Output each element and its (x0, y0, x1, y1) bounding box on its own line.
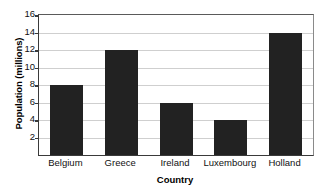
y-axis-tick-mark (35, 15, 39, 17)
y-axis-tick-label: 12 (16, 44, 35, 54)
bar (105, 50, 138, 155)
x-axis-tick-labels: BelgiumGreeceIrelandLuxembourgHolland (38, 157, 312, 171)
x-axis-tick-label: Luxembourg (202, 157, 257, 169)
bar (214, 120, 247, 155)
y-axis-tick-mark (35, 50, 39, 52)
x-axis-tick-label: Belgium (38, 157, 93, 169)
x-axis-tick-label: Holland (257, 157, 312, 169)
x-axis-title: Country (38, 174, 312, 185)
y-axis-tick-mark (35, 138, 39, 140)
bar (269, 33, 302, 156)
bar (50, 85, 83, 155)
y-axis-tick-mark (35, 68, 39, 70)
bars-group (39, 15, 313, 155)
y-axis-tick-mark (35, 120, 39, 122)
y-axis-tick-mark (35, 85, 39, 87)
x-axis-tick-label: Ireland (148, 157, 203, 169)
y-axis-tick-label: 2 (16, 132, 35, 142)
y-axis-tick-mark (35, 103, 39, 105)
bar-chart: Population (millions) 246810121416 Belgi… (0, 0, 321, 191)
y-axis-tick-labels: 246810121416 (16, 14, 35, 154)
y-axis-tick-label: 10 (16, 62, 35, 72)
y-axis-tick-label: 6 (16, 97, 35, 107)
y-axis-tick-label: 16 (16, 9, 35, 19)
plot-area (38, 14, 314, 156)
y-axis-tick-label: 4 (16, 114, 35, 124)
x-axis-tick-label: Greece (93, 157, 148, 169)
y-axis-tick-mark (35, 33, 39, 35)
bar (160, 103, 193, 156)
y-axis-tick-label: 14 (16, 27, 35, 37)
y-axis-tick-label: 8 (16, 79, 35, 89)
